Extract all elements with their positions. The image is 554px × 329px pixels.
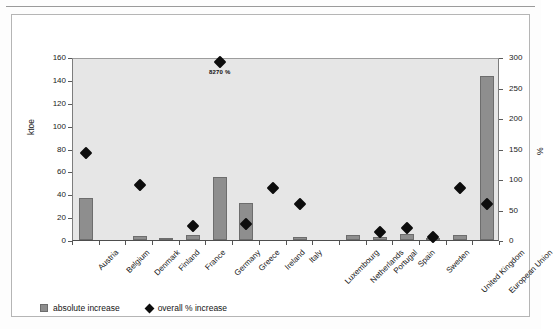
legend-item-overall-percent-increase: overall % increase	[146, 303, 227, 313]
diamond-swatch-icon	[144, 303, 154, 313]
legend-label-overall-percent-increase: overall % increase	[158, 303, 227, 313]
point-annotation: 8270 %	[209, 69, 231, 75]
x-tick-mark	[446, 241, 447, 245]
left-tick-label: 140	[36, 76, 66, 85]
x-tick-mark	[339, 241, 340, 245]
category-label-greece: Greece	[257, 248, 282, 273]
right-tick-label: 0	[509, 236, 543, 245]
bar-italy	[293, 237, 307, 240]
right-tick-label: 150	[509, 145, 543, 154]
legend-label-absolute-increase: absolute increase	[53, 303, 120, 313]
x-tick-mark	[205, 241, 206, 245]
right-tick-mark	[499, 180, 503, 181]
x-tick-mark	[472, 241, 473, 245]
bar-swatch-icon	[40, 304, 48, 312]
legend-item-absolute-increase: absolute increase	[40, 303, 120, 313]
bar-united-kingdom	[453, 235, 467, 240]
left-axis-title: ktoe	[26, 119, 36, 135]
left-tick-label: 120	[36, 99, 66, 108]
bar-france	[186, 235, 200, 240]
bar-germany	[213, 177, 227, 240]
left-tick-label: 100	[36, 122, 66, 131]
right-tick-label: 250	[509, 84, 543, 93]
plot-area: 8270 %	[72, 58, 499, 241]
right-tick-label: 50	[509, 206, 543, 215]
x-tick-mark	[286, 241, 287, 245]
point-united-kingdom	[454, 182, 467, 195]
bar-austria	[79, 198, 93, 240]
category-label-austria: Austria	[97, 248, 121, 272]
bar-european-union	[480, 76, 494, 240]
category-label-belgium: Belgium	[124, 248, 151, 275]
x-tick-mark	[99, 241, 100, 245]
bar-denmark	[133, 236, 147, 240]
x-tick-mark	[72, 241, 73, 245]
point-ireland	[267, 182, 280, 195]
right-tick-mark	[499, 150, 503, 151]
x-tick-mark	[392, 241, 393, 245]
x-tick-mark	[366, 241, 367, 245]
x-tick-mark	[152, 241, 153, 245]
left-tick-label: 160	[36, 53, 66, 62]
page-top-rule	[6, 6, 535, 7]
category-label-italy: Italy	[307, 248, 324, 265]
bar-netherlands	[346, 235, 360, 240]
x-tick-mark	[179, 241, 180, 245]
category-label-sweden: Sweden	[445, 248, 472, 275]
x-tick-mark	[125, 241, 126, 245]
category-label-spain: Spain	[416, 248, 437, 269]
bar-spain	[400, 234, 414, 240]
point-spain	[400, 222, 413, 235]
point-germany	[213, 55, 226, 68]
right-tick-label: 300	[509, 53, 543, 62]
category-label-germany: Germany	[232, 248, 262, 278]
right-tick-mark	[499, 119, 503, 120]
right-tick-mark	[499, 211, 503, 212]
category-label-finland: Finland	[177, 248, 202, 273]
right-tick-label: 100	[509, 175, 543, 184]
point-denmark	[133, 179, 146, 192]
x-tick-mark	[419, 241, 420, 245]
x-tick-mark	[312, 241, 313, 245]
right-tick-label: 200	[509, 114, 543, 123]
x-tick-mark	[259, 241, 260, 245]
left-tick-label: 20	[36, 213, 66, 222]
right-tick-mark	[499, 89, 503, 90]
point-italy	[293, 197, 306, 210]
right-tick-mark	[499, 58, 503, 59]
category-label-ireland: Ireland	[283, 248, 307, 272]
bar-finland	[159, 238, 173, 240]
left-tick-label: 60	[36, 167, 66, 176]
category-label-france: France	[203, 248, 227, 272]
figure-border: ktoe % 020406080100120140160 05010015020…	[11, 14, 530, 317]
left-tick-label: 40	[36, 190, 66, 199]
point-sweden	[427, 231, 440, 244]
x-tick-mark	[232, 241, 233, 245]
category-label-denmark: Denmark	[152, 248, 181, 277]
chart-legend: absolute increase overall % increase	[40, 303, 227, 313]
plot-series-layer: 8270 %	[73, 59, 498, 240]
left-tick-label: 0	[36, 236, 66, 245]
x-tick-mark	[499, 241, 500, 245]
point-france	[187, 220, 200, 233]
left-tick-label: 80	[36, 145, 66, 154]
point-austria	[80, 147, 93, 160]
